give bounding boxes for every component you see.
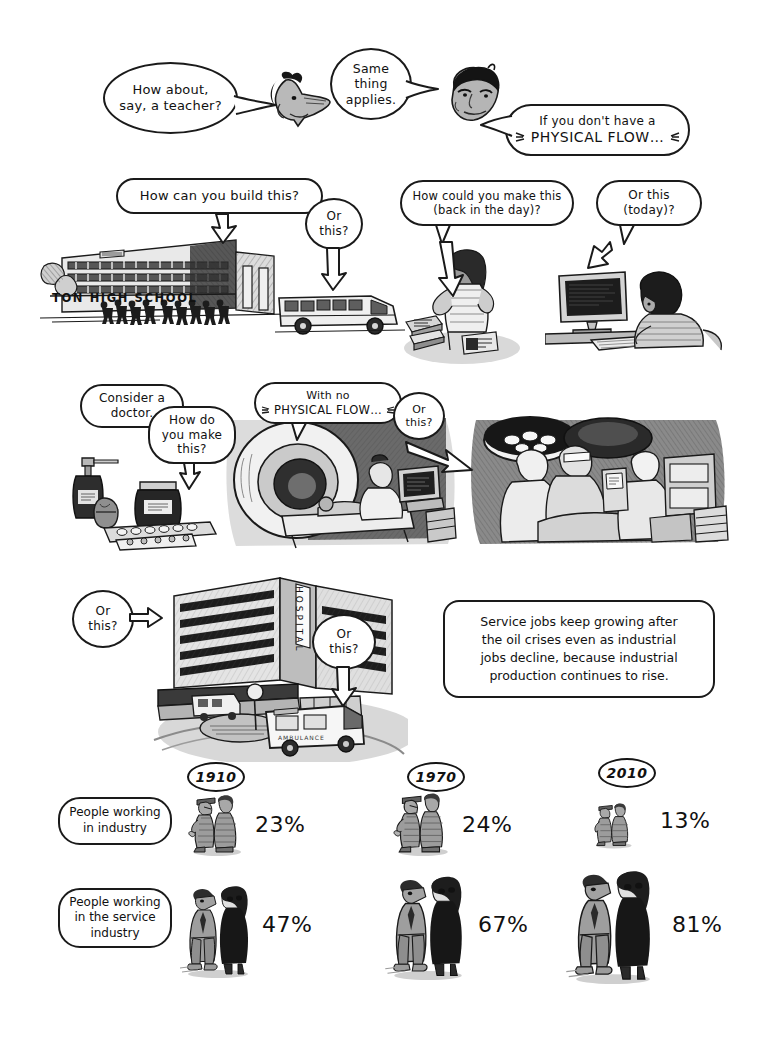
pictogram-industry-1910: [185, 790, 247, 856]
arrow-to-school: [208, 212, 242, 246]
bubble-or-this-hospital-left-text: Or this?: [80, 604, 125, 633]
emphasis-right-icon: [668, 131, 680, 143]
bubble-tail-physical-flow: [480, 112, 514, 140]
bubble-with-no-line1: With no: [306, 389, 350, 402]
high-school-building: [40, 222, 290, 334]
arrow-to-ambulance: [330, 666, 360, 708]
hospital-sign: HOSPITAL: [294, 586, 304, 654]
arrow-to-operating-room: [404, 436, 476, 480]
bubble-physical-flow-line1: If you don't have a: [539, 114, 655, 129]
year-label-1910: 1910: [187, 762, 245, 792]
bubble-with-no-line2: PHYSICAL FLOW…: [274, 403, 382, 417]
bubble-how-about-a-teacher-text: How about, say, a teacher?: [111, 82, 230, 114]
caption-service-jobs: Service jobs keep growing after the oil …: [443, 600, 715, 698]
bubble-how-could-you-make-this: How could you make this (back in the day…: [400, 180, 574, 226]
school-sign: TON HIGH SCHOOL: [52, 291, 197, 305]
bubble-tail-with-no-physical-flow: [288, 422, 312, 442]
series-label-industry: People working in industry: [58, 797, 172, 845]
comic-page: How about, say, a teacher? Same thing ap…: [0, 0, 768, 1042]
arrow-to-computer: [554, 240, 614, 282]
emphasis-left-icon: [261, 405, 271, 415]
bubble-or-this-mri-text: Or this?: [398, 403, 441, 430]
bubble-how-do-you-make-this-text: How do you make this?: [154, 413, 230, 457]
bubble-tail-how-about: [232, 92, 278, 118]
value-industry-2010: 13%: [660, 808, 710, 833]
arrow-to-hospital: [128, 606, 164, 630]
bubble-how-do-you-make-this: How do you make this?: [148, 406, 236, 464]
svg-text:AMBULANCE: AMBULANCE: [278, 734, 325, 741]
bubble-or-this-today: Or this (today)?: [596, 180, 702, 226]
value-service-1970: 67%: [478, 912, 528, 937]
bubble-same-thing-applies: Same thing applies.: [330, 48, 412, 120]
bubble-or-this-today-text: Or this (today)?: [615, 188, 682, 217]
bubble-or-this-mri: Or this?: [393, 392, 445, 440]
value-industry-1910: 23%: [255, 812, 305, 837]
year-label-2010: 2010: [598, 758, 656, 788]
pictogram-service-1910: [180, 882, 256, 978]
bubble-how-about-a-teacher: How about, say, a teacher?: [103, 62, 238, 134]
pictogram-service-2010: [565, 866, 661, 984]
bubble-tail-same-thing: [404, 78, 440, 102]
bubble-or-this-bus-text: Or this?: [311, 209, 356, 238]
emphasis-left-icon: [515, 131, 527, 143]
bubble-physical-flow: If you don't have a PHYSICAL FLOW…: [505, 104, 690, 156]
pictogram-industry-2010: [590, 798, 636, 850]
bubble-with-no-physical-flow: With no PHYSICAL FLOW…: [254, 382, 402, 424]
bubble-tail-or-this-today: [616, 224, 642, 246]
bubble-or-this-hospital-right: Or this?: [312, 614, 376, 670]
bubble-how-can-you-build-this-text: How can you build this?: [132, 188, 307, 204]
value-service-2010: 81%: [672, 912, 722, 937]
series-label-service-industry: People working in the service industry: [58, 888, 172, 948]
bubble-or-this-hospital-right-text: Or this?: [321, 627, 366, 656]
bubble-physical-flow-line2: PHYSICAL FLOW…: [531, 129, 664, 146]
arrow-to-woman-with-books: [436, 240, 468, 298]
value-industry-1970: 24%: [462, 812, 512, 837]
arrow-to-bus: [319, 247, 349, 293]
bubble-same-thing-applies-text: Same thing applies.: [338, 61, 404, 107]
bubble-or-this-hospital-left: Or this?: [72, 590, 134, 648]
pictogram-service-1970: [385, 872, 471, 980]
bubble-or-this-bus: Or this?: [305, 198, 363, 250]
hospital-building-with-ambulances: AMBULANCE: [148, 572, 408, 762]
value-service-1910: 47%: [262, 912, 312, 937]
operating-room: [468, 414, 730, 548]
year-label-1970: 1970: [407, 762, 465, 792]
bubble-how-could-you-make-this-text: How could you make this (back in the day…: [404, 189, 569, 217]
pictogram-industry-1970: [390, 788, 454, 856]
bubble-how-can-you-build-this: How can you build this?: [116, 178, 323, 214]
arrow-to-pharmacy: [178, 462, 204, 492]
